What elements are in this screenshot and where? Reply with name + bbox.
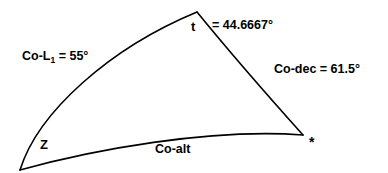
co-l1-subscript: 1	[50, 55, 55, 65]
diagram-canvas: Co-L1 = 55° t = 44.6667° Co-dec = 61.5° …	[0, 0, 388, 173]
co-l1-prefix: Co-L	[22, 49, 50, 63]
co-l1-suffix: = 55°	[55, 49, 88, 63]
star-marker-icon: *	[309, 135, 314, 149]
side-label-co-l1: Co-L1 = 55°	[22, 50, 88, 63]
angle-value-t: = 44.6667°	[212, 19, 273, 32]
vertex-label-t: t	[191, 20, 195, 33]
side-label-co-dec: Co-dec = 61.5°	[274, 63, 360, 76]
vertex-label-z: Z	[40, 138, 48, 151]
side-label-co-alt: Co-alt	[155, 143, 190, 156]
